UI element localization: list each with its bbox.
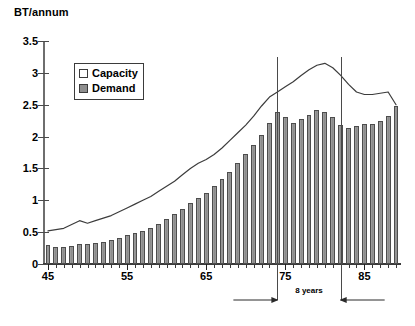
bar (109, 240, 114, 264)
bar (196, 198, 201, 264)
bar (307, 115, 312, 264)
bar (346, 128, 351, 264)
bar (283, 117, 288, 264)
chart-title: BT/annum (14, 6, 69, 18)
bar (85, 244, 90, 264)
legend-label-demand: Demand (92, 83, 135, 94)
x-axis-tick-major (206, 263, 207, 270)
y-axis-tick-label: 1.5 (23, 162, 38, 174)
x-axis-tick-major (364, 263, 365, 270)
bar (259, 135, 264, 264)
bar (370, 124, 375, 264)
bar (148, 228, 153, 264)
bar (227, 172, 232, 264)
bar (204, 193, 209, 264)
y-axis-tick-labels: 3.532.521.510.50 (0, 41, 38, 264)
bar (164, 219, 169, 264)
bar (362, 124, 367, 264)
span-vline-left (277, 57, 278, 300)
filled-square-icon (79, 84, 88, 93)
x-axis-tick-major (127, 263, 128, 270)
bar (243, 154, 248, 264)
bar (172, 214, 177, 264)
chart-container: BT/annum 3.532.521.510.50 4555657585 8 y… (0, 0, 415, 326)
bar (133, 233, 138, 264)
bar (251, 145, 256, 264)
bar (299, 119, 304, 264)
bar (77, 244, 82, 264)
x-axis-tick-label: 55 (121, 270, 133, 282)
legend-item-capacity: Capacity (79, 66, 138, 81)
bar (291, 123, 296, 264)
bar (101, 242, 106, 264)
bar (46, 245, 51, 264)
bar (93, 243, 98, 264)
bar (156, 224, 161, 264)
bar (125, 235, 130, 264)
x-axis-tick-label: 75 (279, 270, 291, 282)
span-annotation-label: 8 years (295, 286, 323, 295)
legend-item-demand: Demand (79, 81, 138, 96)
legend-label-capacity: Capacity (92, 68, 138, 79)
bar (117, 238, 122, 264)
y-axis-tick-label: 0.5 (23, 226, 38, 238)
x-axis-tick-major (48, 263, 49, 270)
x-axis-tick-major (285, 263, 286, 270)
bar (235, 163, 240, 264)
bar (267, 123, 272, 264)
bar (314, 110, 319, 264)
bar (140, 231, 145, 264)
bar (394, 106, 399, 264)
y-axis-tick-label: 3.5 (23, 35, 38, 47)
bar (378, 121, 383, 264)
bar (322, 112, 327, 264)
bar (354, 126, 359, 264)
x-axis-tick-label: 45 (42, 270, 54, 282)
bar (61, 247, 66, 264)
open-square-icon (79, 69, 88, 78)
x-axis-tick-label: 65 (200, 270, 212, 282)
bar (386, 116, 391, 264)
bar (330, 117, 335, 264)
bar (180, 209, 185, 264)
span-vline-right (341, 57, 342, 300)
x-axis-tick-label: 85 (358, 270, 370, 282)
bar (53, 247, 58, 264)
y-axis-tick-label: 2.5 (23, 99, 38, 111)
bar (69, 246, 74, 264)
bar (212, 186, 217, 264)
bar (188, 203, 193, 264)
bar (220, 179, 225, 264)
chart-legend: Capacity Demand (74, 63, 144, 100)
